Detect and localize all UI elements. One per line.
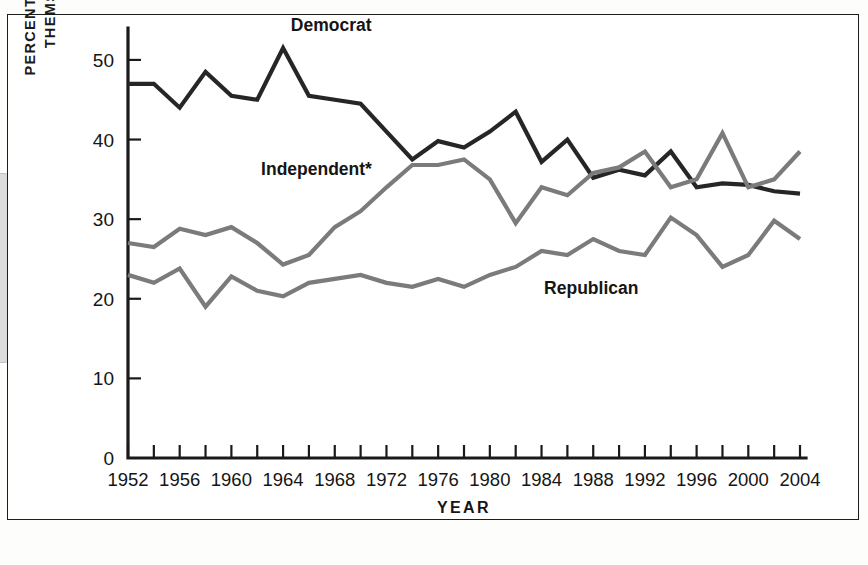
series-label-independent: Independent* bbox=[261, 159, 372, 179]
y-tick-label: 30 bbox=[93, 209, 114, 230]
y-tick-label: 20 bbox=[93, 289, 114, 310]
x-tick-label: 2000 bbox=[728, 469, 769, 490]
y-tick-label: 40 bbox=[93, 130, 114, 151]
series-labels-layer: DemocratIndependent*Republican bbox=[261, 15, 638, 298]
x-tick-label: 1968 bbox=[314, 469, 355, 490]
x-tick-label: 1972 bbox=[366, 469, 407, 490]
series-line-independent bbox=[128, 133, 800, 264]
series-label-republican: Republican bbox=[544, 278, 638, 298]
y-tick-label: 50 bbox=[93, 50, 114, 71]
y-tick-label: 10 bbox=[93, 368, 114, 389]
x-axis-title: YEAR bbox=[437, 499, 491, 516]
page-canvas: PERCENTAGE IDENTIFYING THEMSELVES AS . .… bbox=[0, 0, 868, 565]
x-tick-label: 1988 bbox=[573, 469, 614, 490]
series-line-republican bbox=[128, 218, 800, 307]
x-tick-label: 1992 bbox=[624, 469, 665, 490]
x-tick-label: 1996 bbox=[676, 469, 717, 490]
series-layer bbox=[128, 48, 800, 307]
x-tick-label: 1976 bbox=[418, 469, 459, 490]
x-tick-label: 1960 bbox=[211, 469, 252, 490]
x-tick-label: 1956 bbox=[159, 469, 200, 490]
line-chart: 0102030405019521956196019641968197219761… bbox=[0, 0, 868, 565]
x-tick-label: 1980 bbox=[469, 469, 510, 490]
x-tick-label: 1952 bbox=[107, 469, 148, 490]
x-tick-label: 1984 bbox=[521, 469, 562, 490]
x-tick-label: 2004 bbox=[779, 469, 820, 490]
y-tick-label: 0 bbox=[103, 448, 114, 469]
series-label-democrat: Democrat bbox=[291, 15, 372, 35]
axes-layer: 0102030405019521956196019641968197219761… bbox=[93, 28, 821, 490]
x-tick-label: 1964 bbox=[262, 469, 303, 490]
